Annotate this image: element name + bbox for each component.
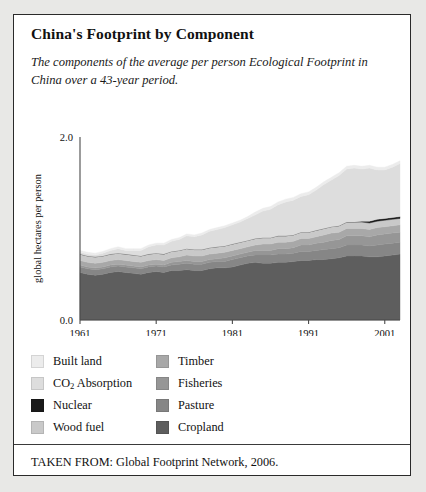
legend-swatch-timber — [156, 355, 169, 368]
x-tick-label: 1991 — [298, 328, 319, 336]
legend-swatch-fisheries — [156, 377, 169, 390]
y-axis-title: global hectares per person — [32, 173, 43, 283]
legend-item: Wood fuel — [31, 417, 161, 438]
legend-item: Cropland — [156, 417, 296, 438]
x-tick-label: 1971 — [146, 328, 167, 336]
legend-swatch-cropland — [156, 421, 169, 434]
legend-swatch-co2-absorption — [31, 377, 44, 390]
figure-panel: China's Footprint by Component The compo… — [13, 14, 411, 476]
figure-subtitle: The components of the average per person… — [31, 53, 383, 90]
legend-label: CO2 Absorption — [53, 376, 132, 391]
legend-column-right: TimberFisheriesPastureCropland — [156, 351, 296, 439]
page-title: China's Footprint by Component — [31, 25, 254, 43]
legend-label: Built land — [53, 354, 102, 369]
legend-item: Timber — [156, 351, 296, 372]
y-tick-label: 0.0 — [60, 315, 73, 326]
legend-swatch-wood-fuel — [31, 421, 44, 434]
legend-label: Fisheries — [178, 376, 222, 391]
legend-swatch-nuclear — [31, 399, 44, 412]
chart-legend: Built landCO2 AbsorptionNuclearWood fuel… — [14, 351, 411, 443]
legend-item: Fisheries — [156, 373, 296, 394]
legend-label: Nuclear — [53, 398, 92, 413]
y-tick-label: 2.0 — [60, 132, 73, 143]
legend-item: Pasture — [156, 395, 296, 416]
source-attribution: TAKEN FROM: Global Footprint Network, 20… — [31, 455, 278, 470]
legend-label: Wood fuel — [53, 420, 104, 435]
chart-canvas: 0.02.019611971198119912001global hectare… — [14, 111, 411, 336]
legend-item: Nuclear — [31, 395, 161, 416]
legend-label: Timber — [178, 354, 214, 369]
legend-item: Built land — [31, 351, 161, 372]
x-tick-label: 2001 — [374, 328, 395, 336]
chart-areas — [80, 161, 400, 320]
footer-divider — [14, 444, 411, 445]
legend-label: Pasture — [178, 398, 214, 413]
legend-item: CO2 Absorption — [31, 373, 161, 394]
legend-swatch-pasture — [156, 399, 169, 412]
legend-column-left: Built landCO2 AbsorptionNuclearWood fuel — [31, 351, 161, 439]
legend-label: Cropland — [178, 420, 224, 435]
stacked-area-chart: 0.02.019611971198119912001global hectare… — [14, 111, 411, 336]
legend-swatch-built-land — [31, 355, 44, 368]
x-tick-label: 1981 — [222, 328, 243, 336]
x-tick-label: 1961 — [69, 328, 90, 336]
